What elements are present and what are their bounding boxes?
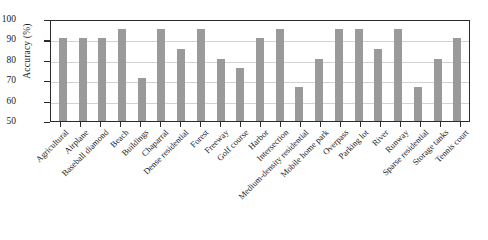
- x-tick-mark: [80, 122, 81, 127]
- bar-slot: [369, 21, 389, 121]
- bar: [335, 29, 343, 121]
- y-tick-label: 100: [0, 15, 16, 25]
- bar: [256, 38, 264, 121]
- y-tick-mark: [44, 122, 50, 123]
- y-tick-label: 90: [0, 35, 16, 45]
- bar-slot: [250, 21, 270, 121]
- bar: [414, 87, 422, 121]
- bar: [295, 87, 303, 121]
- x-axis-tick-labels: AgriculturalAirplaneBaseball diamondBeac…: [50, 128, 470, 228]
- x-tick-mark: [360, 122, 361, 127]
- bar-slot: [428, 21, 448, 121]
- bar: [118, 29, 126, 121]
- bar-slot: [408, 21, 428, 121]
- y-tick-label: 80: [0, 56, 16, 66]
- x-tick-mark: [420, 122, 421, 127]
- x-tick-mark: [400, 122, 401, 127]
- bar-slot: [290, 21, 310, 121]
- bar: [236, 68, 244, 121]
- bar: [98, 38, 106, 121]
- bar: [177, 49, 185, 121]
- x-tick-mark: [140, 122, 141, 127]
- bar: [217, 59, 225, 121]
- bar: [138, 78, 146, 121]
- x-tick-mark: [100, 122, 101, 127]
- bar-slot: [388, 21, 408, 121]
- x-tick-mark: [440, 122, 441, 127]
- bar: [453, 38, 461, 121]
- bar-slot: [152, 21, 172, 121]
- bar-slot: [92, 21, 112, 121]
- x-tick-mark: [320, 122, 321, 127]
- bar-slot: [270, 21, 290, 121]
- bar: [355, 29, 363, 121]
- x-tick-mark: [340, 122, 341, 127]
- bar-slot: [191, 21, 211, 121]
- y-axis-title: Accuracy (%): [22, 0, 32, 106]
- bar: [374, 49, 382, 121]
- x-tick-mark: [380, 122, 381, 127]
- bar-slot: [132, 21, 152, 121]
- bar: [434, 59, 442, 121]
- y-tick-label: 50: [0, 117, 16, 127]
- bar-chart-figure: Accuracy (%) 5060708090100 AgriculturalA…: [0, 0, 488, 240]
- x-tick-mark: [220, 122, 221, 127]
- y-tick-label: 60: [0, 97, 16, 107]
- bar: [315, 59, 323, 121]
- bar: [157, 29, 165, 121]
- bar-series: [51, 21, 469, 121]
- bar-slot: [349, 21, 369, 121]
- x-tick-mark: [60, 122, 61, 127]
- bar-slot: [329, 21, 349, 121]
- bar: [79, 38, 87, 121]
- bar-slot: [53, 21, 73, 121]
- plot-area: [50, 20, 470, 122]
- x-tick-mark: [180, 122, 181, 127]
- bar-slot: [230, 21, 250, 121]
- x-tick-mark: [120, 122, 121, 127]
- bar-slot: [447, 21, 467, 121]
- bar: [197, 29, 205, 121]
- bar: [59, 38, 67, 121]
- bar-slot: [73, 21, 93, 121]
- bar: [394, 29, 402, 121]
- bar-slot: [171, 21, 191, 121]
- x-tick-mark: [280, 122, 281, 127]
- x-tick-mark: [200, 122, 201, 127]
- x-tick-mark: [460, 122, 461, 127]
- bar-slot: [309, 21, 329, 121]
- y-tick-label: 70: [0, 76, 16, 86]
- x-tick-mark: [260, 122, 261, 127]
- bar-slot: [211, 21, 231, 121]
- bar: [276, 29, 284, 121]
- bar-slot: [112, 21, 132, 121]
- x-tick-mark: [300, 122, 301, 127]
- x-tick-mark: [240, 122, 241, 127]
- x-tick-mark: [160, 122, 161, 127]
